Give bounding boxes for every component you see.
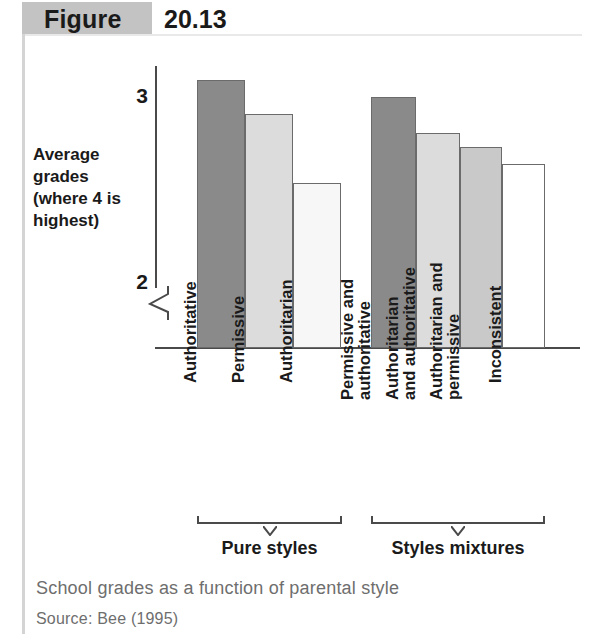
category-label-line: Authoritarian (384, 267, 401, 400)
category-label-line: and authoritative (401, 267, 418, 400)
group-bracket-pure-styles (197, 516, 342, 532)
category-label-2: Permissive (230, 296, 247, 383)
category-label-line: Authoritarian and (428, 262, 445, 400)
bracket-cap-right (543, 516, 545, 524)
category-label-1: Authoritative (182, 281, 199, 383)
group-bracket-label-styles-mixtures: Styles mixtures (371, 538, 545, 559)
chart-plot-area: 3 2 Average grades (where 4 is highest) … (0, 0, 593, 644)
category-label-line: Permissive (230, 296, 247, 383)
bracket-cap-left (371, 516, 373, 524)
bar-3 (293, 183, 341, 348)
category-label-line: authoritative (356, 279, 373, 400)
figure-source: Source: Bee (1995) (36, 610, 178, 628)
bracket-notch (451, 522, 465, 532)
category-label-line: Authoritarian (278, 279, 295, 383)
figure-caption: School grades as a function of parental … (36, 578, 399, 599)
bracket-cap-left (197, 516, 199, 524)
bar-7 (502, 164, 545, 348)
category-label-6: Authoritarian andpermissive (428, 262, 462, 400)
group-bracket-label-pure-styles: Pure styles (197, 538, 342, 559)
bars-container (0, 0, 593, 348)
category-label-line: Authoritative (182, 281, 199, 383)
category-label-line: Permissive and (339, 279, 356, 400)
category-label-line: permissive (445, 262, 462, 400)
bracket-notch (263, 522, 277, 532)
category-label-3: Authoritarian (278, 279, 295, 383)
group-bracket-styles-mixtures (371, 516, 545, 532)
category-label-5: Authoritarianand authoritative (384, 267, 418, 400)
category-label-7: Inconsistent (487, 286, 504, 383)
bracket-cap-right (340, 516, 342, 524)
category-label-line: Inconsistent (487, 286, 504, 383)
category-label-4: Permissive andauthoritative (339, 279, 373, 400)
